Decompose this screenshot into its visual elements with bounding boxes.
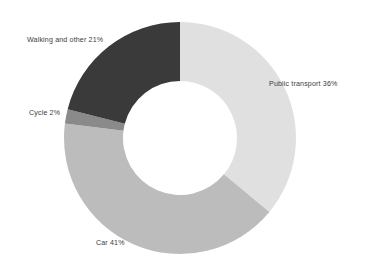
slice-label-car: Car 41% — [96, 240, 125, 247]
donut-slice-group — [64, 22, 296, 254]
donut-slice-public-transport[interactable] — [180, 22, 296, 212]
slice-label-cycle: Cycle 2% — [29, 110, 60, 117]
slice-label-walking-and-other: Walking and other 21% — [27, 37, 103, 44]
slice-label-public-transport: Public transport 36% — [269, 81, 337, 88]
donut-chart: Public transport 36% Car 41% Cycle 2% Wa… — [0, 0, 379, 277]
